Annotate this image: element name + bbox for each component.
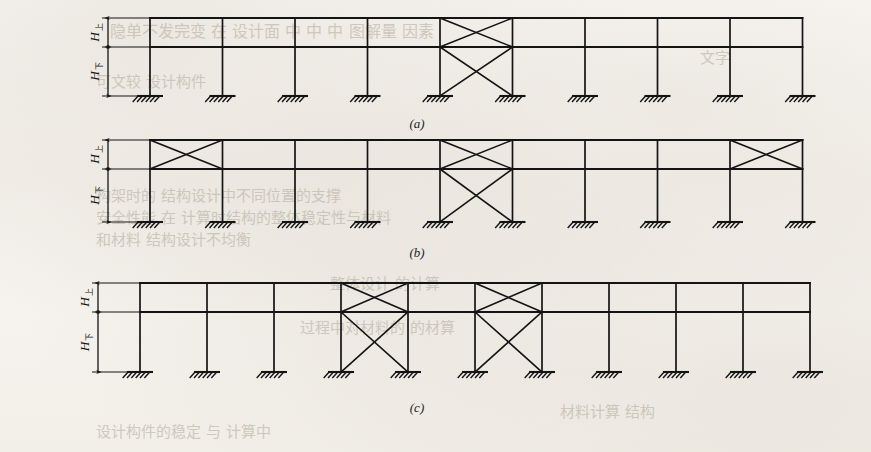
fixed-support-symbol <box>257 372 287 378</box>
x-brace-lower-bay-6 <box>475 312 542 372</box>
fixed-support-symbol <box>495 222 525 228</box>
dimension-symbol: H <box>87 31 102 43</box>
dimension-subscript: 下 <box>95 62 104 70</box>
x-brace-upper-bay-5 <box>440 18 513 47</box>
dimension-label-upper-b: H上 <box>87 145 104 165</box>
x-brace-lower-bay-5 <box>440 47 513 96</box>
fixed-support-symbol <box>785 96 815 102</box>
fixed-support-symbol <box>525 372 555 378</box>
dimension-subscript: 下 <box>95 186 104 194</box>
fixed-support-symbol <box>659 372 689 378</box>
fixed-support-symbol <box>785 222 815 228</box>
dimension-label-upper-a: H上 <box>87 23 104 43</box>
frame-diagrams-svg: H上H下H上H下H上H下 (a) (b) (c) <box>0 0 871 452</box>
fixed-support-symbol <box>726 372 756 378</box>
figure-canvas: H上H下H上H下H上H下 (a) (b) (c) <box>0 0 871 452</box>
fixed-support-symbol <box>640 96 670 102</box>
x-brace-upper-bay-5 <box>440 140 513 169</box>
dimension-symbol: H <box>87 194 102 206</box>
fixed-support-symbol <box>278 96 308 102</box>
fixed-support-symbol <box>278 222 308 228</box>
dimension-symbol: H <box>87 153 102 165</box>
x-brace-upper-bay-1 <box>150 140 223 169</box>
dimension-subscript: 上 <box>95 145 104 153</box>
fixed-support-symbol <box>123 372 153 378</box>
dimension-symbol: H <box>87 70 102 82</box>
fixed-support-symbol <box>640 222 670 228</box>
dimension-symbol: H <box>77 296 92 308</box>
fixed-support-symbol <box>391 372 421 378</box>
x-brace-upper-bay-9 <box>730 140 803 169</box>
caption-c: (c) <box>410 400 424 415</box>
dimension-set-a: H上H下 <box>87 18 154 96</box>
fixed-support-symbol <box>793 372 823 378</box>
fixed-support-symbol <box>205 222 235 228</box>
fixed-support-symbol <box>592 372 622 378</box>
dimension-symbol: H <box>77 340 92 352</box>
x-brace-upper-bay-6 <box>475 283 542 312</box>
caption-b: (b) <box>409 245 424 260</box>
fixed-support-symbol <box>713 96 743 102</box>
x-brace-lower-bay-5 <box>440 169 513 222</box>
dimension-label-upper-c: H上 <box>77 288 94 308</box>
fixed-support-symbol <box>133 96 163 102</box>
frame-a <box>133 18 816 102</box>
dimension-set-b: H上H下 <box>87 140 154 222</box>
caption-a: (a) <box>409 116 424 131</box>
x-brace-upper-bay-4 <box>341 283 408 312</box>
dimension-label-lower-a: H下 <box>87 62 104 82</box>
fixed-support-symbol <box>423 222 453 228</box>
dimension-label-lower-c: H下 <box>77 333 94 353</box>
fixed-support-symbol <box>458 372 488 378</box>
fixed-support-symbol <box>713 222 743 228</box>
dimension-subscript: 上 <box>85 288 94 296</box>
x-brace-lower-bay-4 <box>341 312 408 372</box>
frame-c <box>123 283 823 378</box>
fixed-support-symbol <box>568 96 598 102</box>
dimension-subscript: 下 <box>85 333 94 341</box>
fixed-support-symbol <box>495 96 525 102</box>
fixed-support-symbol <box>190 372 220 378</box>
fixed-support-symbol <box>423 96 453 102</box>
fixed-support-symbol <box>324 372 354 378</box>
dimension-set-c: H上H下 <box>77 283 144 372</box>
fixed-support-symbol <box>350 222 380 228</box>
dimension-subscript: 上 <box>95 23 104 31</box>
dimension-label-lower-b: H下 <box>87 186 104 206</box>
frame-b <box>133 140 816 228</box>
fixed-support-symbol <box>568 222 598 228</box>
fixed-support-symbol <box>133 222 163 228</box>
fixed-support-symbol <box>350 96 380 102</box>
fixed-support-symbol <box>205 96 235 102</box>
